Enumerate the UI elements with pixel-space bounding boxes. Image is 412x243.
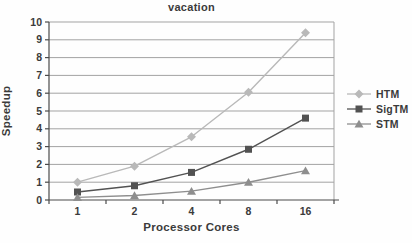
legend-sample-sigtm-icon xyxy=(346,103,372,115)
legend-sample-htm-icon xyxy=(346,88,372,100)
marker-sigtm-16 xyxy=(302,115,309,122)
y-tick-label-10: 10 xyxy=(30,16,42,28)
y-tick-label-7: 7 xyxy=(36,69,42,81)
legend-item-sigtm: SigTM xyxy=(346,103,409,115)
y-tick-label-8: 8 xyxy=(36,51,42,63)
y-tick-label-9: 9 xyxy=(36,33,42,45)
legend-marker-sigtm xyxy=(356,106,363,113)
y-tick-label-0: 0 xyxy=(36,194,42,206)
legend-marker-htm xyxy=(355,90,364,99)
legend-label-stm: STM xyxy=(376,118,399,130)
marker-htm-2 xyxy=(130,162,139,171)
legend-label-htm: HTM xyxy=(376,88,399,100)
legend-sample-stm-icon xyxy=(346,118,372,130)
x-axis-label: Processor Cores xyxy=(49,221,334,233)
y-tick-label-1: 1 xyxy=(36,176,42,188)
legend-item-htm: HTM xyxy=(346,88,409,100)
x-tick-label-4: 4 xyxy=(189,205,195,217)
series-line-htm xyxy=(78,33,306,183)
y-tick-label-5: 5 xyxy=(36,105,42,117)
x-tick-label-2: 2 xyxy=(132,205,138,217)
vacation-speedup-chart: vacation Speedup 012345678910124816 Proc… xyxy=(0,0,412,243)
x-tick-label-8: 8 xyxy=(246,205,252,217)
marker-sigtm-8 xyxy=(245,146,252,153)
marker-htm-1 xyxy=(73,178,82,187)
legend-label-sigtm: SigTM xyxy=(376,103,409,115)
x-tick-label-1: 1 xyxy=(75,205,81,217)
marker-sigtm-4 xyxy=(188,169,195,176)
legend: HTM SigTM STM xyxy=(346,88,409,130)
y-tick-label-4: 4 xyxy=(36,122,42,134)
y-tick-label-2: 2 xyxy=(36,158,42,170)
marker-stm-16 xyxy=(301,166,310,174)
y-tick-label-3: 3 xyxy=(36,140,42,152)
y-tick-label-6: 6 xyxy=(36,87,42,99)
x-tick-label-16: 16 xyxy=(300,205,312,217)
marker-sigtm-2 xyxy=(131,182,138,189)
legend-item-stm: STM xyxy=(346,118,409,130)
